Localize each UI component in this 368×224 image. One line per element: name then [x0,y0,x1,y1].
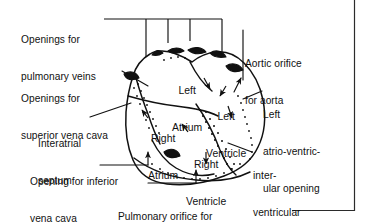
label-interventricular-septum: inter- ventricular septum [253,145,301,224]
label-line: Left [263,109,320,121]
label-line: Left [172,85,202,97]
label-line: Openings for [21,93,108,105]
label-right-ventricle: Right Ventricle [186,135,226,224]
figure-canvas: Openings for pulmonary veins Openings fo… [0,0,368,224]
label-line: Opening for inferior [30,176,118,188]
label-opening-inferior-vena-cava: Opening for inferior vena cava [30,151,118,224]
label-line: Openings for [21,34,96,46]
label-line: vena cava [30,213,118,224]
pulmonary-vein-cusp-2 [168,48,184,53]
label-line: Atrium [148,170,178,182]
label-line: Aortic orifice [245,58,302,70]
label-line: Left [206,111,246,123]
label-line: Ventricle [186,196,226,208]
label-right-atrium: Right Atrium [148,109,178,207]
label-line: ventricular [253,207,301,219]
label-line: Right [148,133,178,145]
label-line: Right [186,159,226,171]
label-line: Interatrial [38,138,81,150]
label-line: inter- [253,170,301,182]
pulmonary-vein-cusp-3 [188,48,206,54]
